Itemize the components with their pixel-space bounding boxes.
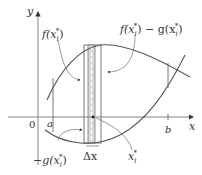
b-label: b — [165, 124, 171, 135]
f-minus-g-leader — [108, 35, 135, 72]
x-axis-label: x — [189, 120, 196, 133]
svg-text:xi*: xi* — [128, 149, 137, 165]
svg-text:f(xi*): f(xi*) — [41, 27, 64, 43]
f-xi-label: f(xi*) — [41, 27, 64, 43]
xi-star-point — [92, 116, 95, 119]
representative-rectangle — [84, 45, 101, 143]
y-axis-label: y — [26, 5, 34, 18]
xi-star-leader — [96, 118, 132, 150]
svg-text:−g(xi*): −g(xi*) — [33, 153, 67, 169]
f-minus-g-label: f(xi*) − g(xi*) — [119, 22, 182, 38]
origin-label: 0 — [29, 119, 35, 130]
a-label: a — [47, 118, 53, 129]
xi-star-label: xi* — [128, 149, 137, 165]
neg-g-xi-label: −g(xi*) — [33, 153, 67, 169]
delta-x-label: Δx — [83, 150, 98, 163]
area-between-curves-diagram: y x 0 a b f(xi*) f(xi*) − g(xi*) −g(xi*)… — [0, 0, 202, 175]
svg-text:f(xi*) − g(xi*): f(xi*) − g(xi*) — [119, 22, 182, 38]
